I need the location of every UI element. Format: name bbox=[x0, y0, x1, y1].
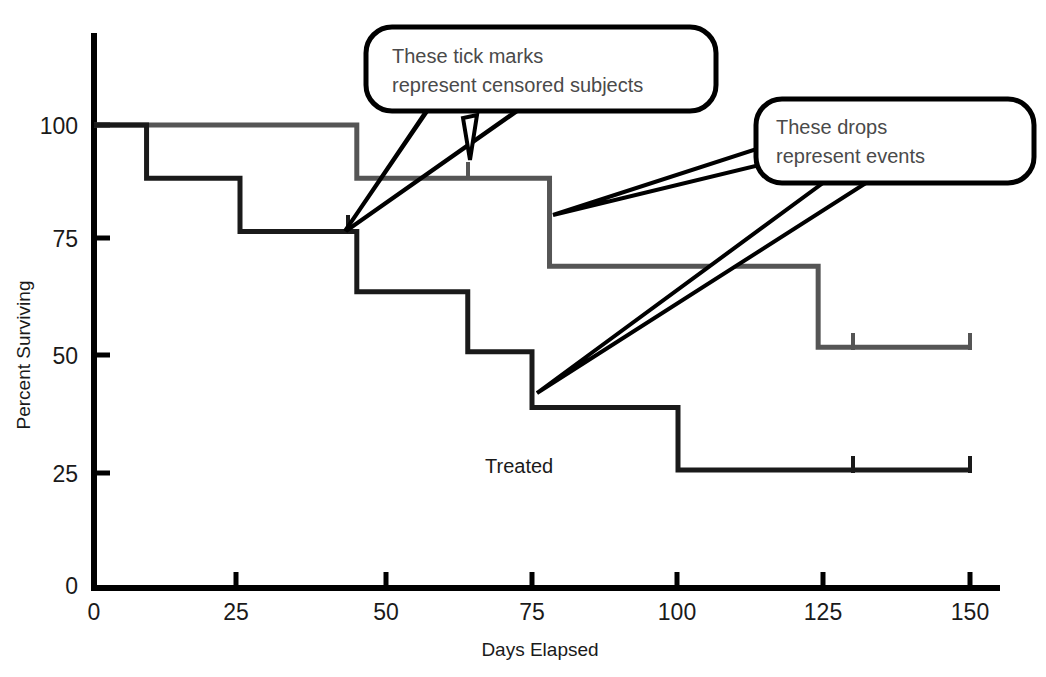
callout-events-line1: These drops bbox=[776, 116, 887, 138]
x-tick-label-25: 25 bbox=[223, 599, 249, 625]
y-tick-label-75: 75 bbox=[52, 226, 78, 252]
y-tick-label-50: 50 bbox=[52, 343, 78, 369]
x-tick-label-125: 125 bbox=[804, 599, 842, 625]
treated-series-label: Treated bbox=[485, 455, 553, 477]
x-tick-label-150: 150 bbox=[951, 599, 989, 625]
callout-censored-tail-notch bbox=[463, 115, 477, 160]
x-tick-label-75: 75 bbox=[519, 599, 545, 625]
y-tick-label-100: 100 bbox=[40, 113, 78, 139]
callout-events-tail-upper bbox=[553, 146, 766, 215]
callout-censored-line2: represent censored subjects bbox=[392, 74, 643, 96]
kaplan-meier-figure: 100 75 50 25 0 0 25 50 75 100 125 150 Da… bbox=[0, 0, 1046, 677]
y-tick-label-0: 0 bbox=[65, 573, 78, 599]
x-tick-label-0: 0 bbox=[88, 599, 101, 625]
callout-censored-subjects[interactable]: These tick marks represent censored subj… bbox=[345, 27, 716, 231]
callout-events-line2: represent events bbox=[776, 145, 925, 167]
y-axis-title: Percent Surviving bbox=[13, 281, 34, 430]
x-tick-label-100: 100 bbox=[658, 599, 696, 625]
callout-censored-tail-right bbox=[346, 107, 523, 231]
x-tick-label-50: 50 bbox=[373, 599, 399, 625]
callout-censored-line1: These tick marks bbox=[392, 45, 543, 67]
survival-curve-plot: 100 75 50 25 0 0 25 50 75 100 125 150 Da… bbox=[0, 0, 1046, 677]
callout-events-balloon bbox=[756, 99, 1034, 183]
x-axis-title: Days Elapsed bbox=[481, 639, 598, 660]
callout-censored-balloon bbox=[366, 27, 716, 111]
y-tick-label-25: 25 bbox=[52, 461, 78, 487]
